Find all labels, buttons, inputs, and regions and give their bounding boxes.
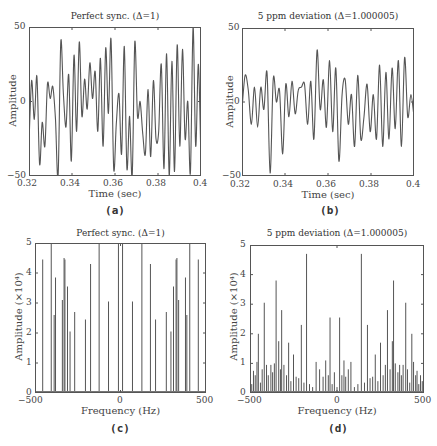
chart-b-caption: (b): [310, 204, 350, 217]
chart-d-xtick-1: 0: [334, 395, 340, 405]
chart-d-caption: (d): [318, 422, 358, 435]
chart-a-ytick-top: 50: [14, 21, 25, 31]
chart-d-ytick-4: 4: [240, 269, 246, 279]
chart-b-xtick-1: 0.34: [273, 179, 293, 189]
chart-c-xtick-2: 500: [196, 395, 213, 405]
chart-d-ylabel: Amplitude (×10⁴): [228, 262, 239, 372]
chart-c-ytick-3: 3: [26, 297, 32, 307]
chart-a-xtick-0: 0.32: [17, 178, 37, 188]
chart-c-ytick-4: 4: [26, 267, 32, 277]
chart-b-ytick-top: 50: [228, 22, 239, 32]
chart-d-plot: [250, 245, 424, 393]
chart-b-xtick-3: 0.38: [359, 179, 379, 189]
chart-b-xtick-0: 0.32: [230, 179, 250, 189]
chart-b-ytick-mid: 0: [234, 96, 240, 106]
chart-d-ytick-2: 2: [240, 328, 246, 338]
chart-b-xtick-2: 0.36: [316, 179, 336, 189]
chart-a-xtick-1: 0.34: [60, 178, 80, 188]
chart-c-plot: [35, 243, 206, 393]
chart-d-ytick-1: 1: [240, 357, 246, 367]
chart-d-ytick-5: 5: [240, 239, 246, 249]
chart-a-xtick-4: 0.4: [193, 178, 207, 188]
chart-a-plot: [29, 27, 201, 176]
chart-d-xtick-0: −500: [237, 395, 262, 405]
chart-c-xtick-1: 0: [117, 395, 123, 405]
chart-a-xtick-2: 0.36: [103, 178, 123, 188]
chart-a-xtick-3: 0.38: [146, 178, 166, 188]
chart-d-title: 5 ppm deviation (Δ=1.000005): [250, 228, 424, 238]
chart-a-ylabel: Amplitude: [7, 66, 18, 136]
chart-c-xtick-0: −500: [18, 395, 43, 405]
chart-c-ytick-1: 1: [26, 357, 32, 367]
chart-a-caption: (a): [95, 204, 135, 217]
chart-c-caption: (c): [100, 422, 140, 435]
chart-a-title: Perfect sync. (Δ=1): [29, 11, 201, 21]
chart-b-title: 5 ppm deviation (Δ=1.000005): [242, 11, 414, 21]
chart-d-xlabel: Frequency (Hz): [250, 405, 424, 416]
chart-c-xlabel: Frequency (Hz): [35, 405, 206, 416]
chart-c-ytick-2: 2: [26, 327, 32, 337]
chart-c-ylabel: Amplitude (×10⁴): [13, 262, 24, 372]
chart-b-ylabel: Amplitude: [224, 67, 235, 137]
chart-b-xtick-4: 0.4: [406, 179, 420, 189]
chart-c-title: Perfect sync. (Δ=1): [35, 228, 206, 238]
chart-a-ytick-mid: 0: [20, 96, 26, 106]
chart-c-ytick-5: 5: [26, 237, 32, 247]
chart-b-xlabel: Time (sec): [242, 189, 414, 200]
chart-b-plot: [242, 28, 414, 176]
chart-a-xlabel: Time (sec): [29, 188, 201, 199]
chart-d-xtick-2: 500: [414, 395, 431, 405]
chart-d-ytick-3: 3: [240, 298, 246, 308]
